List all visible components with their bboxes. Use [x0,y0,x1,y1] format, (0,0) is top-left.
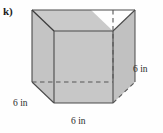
figure-container: k) 6 [0,0,163,133]
dimension-label-depth: 6 in [13,98,28,109]
cube-front-face [54,31,113,103]
dimension-label-width: 6 in [71,116,86,127]
cube-right-face [113,10,135,103]
dimension-label-height: 6 in [133,64,148,75]
